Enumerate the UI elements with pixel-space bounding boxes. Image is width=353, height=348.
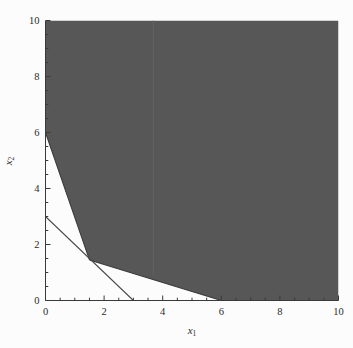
y-axis-title-subscript: 2 xyxy=(7,156,16,160)
x-axis-tick-label: 8 xyxy=(277,307,282,318)
y-axis-title-base: x xyxy=(2,160,14,165)
y-axis-tick-label: 8 xyxy=(34,71,39,82)
x-axis-title: x1 xyxy=(188,325,197,336)
y-axis-tick-label: 2 xyxy=(34,239,39,250)
x-axis-tick-label: 4 xyxy=(160,307,165,318)
y-axis-tick-label: 0 xyxy=(34,295,39,306)
x-axis-title-subscript: 1 xyxy=(193,329,197,338)
chart-figure: 0246810 0246810 x1 x2 xyxy=(0,0,353,348)
x-axis-tick-label: 2 xyxy=(101,307,106,318)
y-axis-title: x2 xyxy=(3,156,14,165)
x-axis-tick-label: 10 xyxy=(333,307,344,318)
y-axis-tick-label: 4 xyxy=(34,183,39,194)
x-axis-tick-label: 0 xyxy=(43,307,48,318)
y-axis-tick-label: 6 xyxy=(34,127,39,138)
y-axis-tick-label: 10 xyxy=(29,15,40,26)
x-axis-tick-label: 6 xyxy=(219,307,224,318)
plot-canvas xyxy=(0,0,353,348)
